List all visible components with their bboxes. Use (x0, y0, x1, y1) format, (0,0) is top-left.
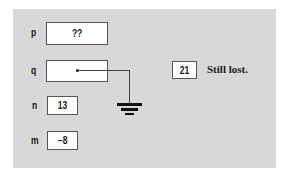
orphan-value: 21 (180, 65, 189, 76)
variable-box-m: −8 (47, 131, 78, 150)
variable-box-p: ?? (46, 22, 108, 45)
pointer-line-horizontal (78, 70, 130, 71)
variable-box-n: 13 (47, 96, 78, 115)
variable-label-m: m (31, 135, 39, 146)
variable-label-n: n (32, 100, 37, 111)
variable-label-p: p (31, 27, 36, 38)
pointer-line-vertical (129, 70, 130, 103)
variable-value-m: −8 (58, 135, 68, 146)
orphan-value-box: 21 (172, 61, 197, 79)
variable-label-q: q (31, 65, 36, 76)
variable-value-n: 13 (58, 100, 67, 111)
variable-value-p: ?? (72, 28, 82, 39)
orphan-caption: Still lost. (207, 63, 248, 75)
